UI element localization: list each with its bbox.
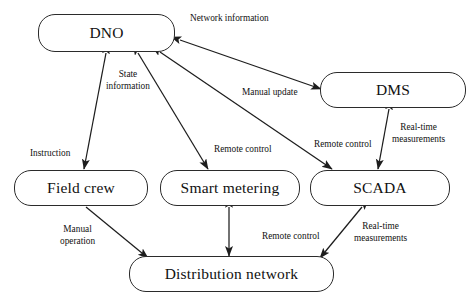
node-distribution-network[interactable]: Distribution network <box>129 256 334 292</box>
node-distribution-network-label: Distribution network <box>165 266 299 282</box>
edge-label-real-time-measurements-distribution: Real-time measurements <box>354 221 407 244</box>
node-scada[interactable]: SCADA <box>310 170 450 206</box>
node-dno-label: DNO <box>89 25 123 41</box>
edge-label-remote-control-scada: Remote control <box>314 139 372 151</box>
node-smart-metering[interactable]: Smart metering <box>160 170 300 206</box>
node-field-crew-label: Field crew <box>47 180 115 196</box>
edge-label-remote-control-smart-metering: Remote control <box>214 144 272 156</box>
edge-label-instruction: Instruction <box>30 148 70 160</box>
edge-label-state-information: State information <box>106 69 150 92</box>
edge-dno-dms <box>180 40 321 89</box>
node-scada-label: SCADA <box>353 180 407 196</box>
edge-label-real-time-measurements-dms: Real-time measurements <box>392 122 445 145</box>
node-dno[interactable]: DNO <box>38 14 175 52</box>
edge-label-manual-update: Manual update <box>242 87 298 99</box>
edge-dno-field <box>84 53 106 169</box>
edge-dms-scada <box>378 109 389 169</box>
edge-label-remote-control-distribution: Remote control <box>262 231 320 243</box>
edge-label-manual-operation: Manual operation <box>60 224 95 247</box>
node-dms-label: DMS <box>376 82 410 98</box>
node-field-crew[interactable]: Field crew <box>14 170 148 206</box>
diagram-canvas: DNO DMS Field crew Smart metering SCADA … <box>0 0 475 307</box>
node-dms[interactable]: DMS <box>320 72 466 108</box>
edge-field-dist <box>86 207 148 258</box>
node-smart-metering-label: Smart metering <box>181 180 280 196</box>
edge-label-network-information: Network information <box>190 13 269 25</box>
